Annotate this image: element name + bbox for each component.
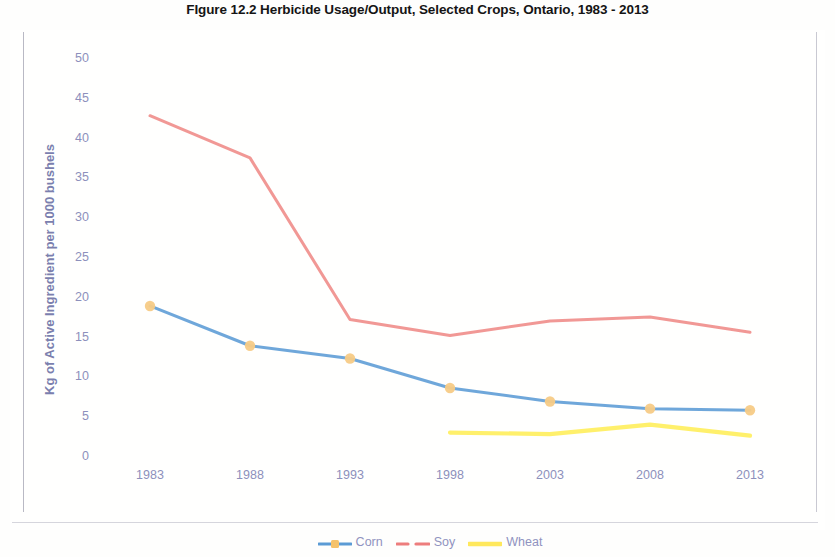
chart-legend: CornSoyWheat [280,530,580,554]
data-point-marker [745,405,755,415]
data-point-marker [645,403,655,413]
legend-item-corn[interactable]: Corn [318,535,383,549]
page-title: FIgure 12.2 Herbicide Usage/Output, Sele… [0,2,835,17]
legend-label-wheat: Wheat [506,535,542,549]
data-point-marker [145,301,155,311]
series-layer [145,116,755,436]
legend-label-soy: Soy [434,535,456,549]
legend-swatch-soy-icon [396,536,430,548]
data-point-marker [445,383,455,393]
legend-item-wheat[interactable]: Wheat [468,535,542,549]
series-line-corn [150,306,750,410]
series-line-wheat [450,425,750,436]
legend-swatch-corn-icon [318,536,352,548]
series-line-soy [150,116,750,336]
chart-frame: Kg of Active Ingredient per 1000 bushels… [10,30,825,530]
scanned-page: FIgure 12.2 Herbicide Usage/Output, Sele… [0,0,835,557]
data-point-marker [245,341,255,351]
data-point-marker [545,396,555,406]
legend-swatch-wheat-icon [468,536,502,548]
plot-area [10,30,825,530]
legend-label-corn: Corn [356,535,383,549]
legend-item-soy[interactable]: Soy [396,535,456,549]
data-point-marker [345,353,355,363]
